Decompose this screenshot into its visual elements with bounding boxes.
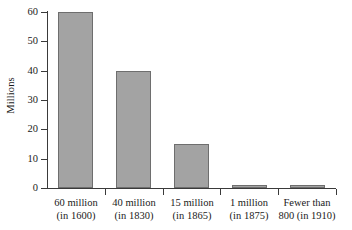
bar-chart: Millions 0102030405060 60 million(in 160…	[0, 0, 352, 230]
y-tick-mark	[41, 188, 47, 189]
x-category-label: Fewer than800 (in 1910)	[271, 197, 343, 222]
bar	[174, 144, 209, 188]
bar	[116, 71, 151, 188]
y-tick-label: 40	[8, 65, 38, 76]
x-tick-mark	[220, 189, 221, 195]
y-tick-mark	[41, 71, 47, 72]
x-tick-mark	[105, 189, 106, 195]
y-axis-line	[47, 11, 48, 189]
y-tick-mark	[41, 41, 47, 42]
y-tick-mark	[41, 12, 47, 13]
x-tick-mark	[163, 189, 164, 195]
bar	[58, 12, 93, 188]
y-tick-mark	[41, 159, 47, 160]
y-tick-label: 50	[8, 36, 38, 47]
y-tick-label: 0	[8, 183, 38, 194]
y-tick-label: 10	[8, 153, 38, 164]
x-tick-mark	[278, 189, 279, 195]
x-category-label-line: 800 (in 1910)	[271, 210, 343, 223]
bar	[232, 185, 267, 188]
x-category-label-line: Fewer than	[271, 197, 343, 210]
y-tick-mark	[41, 100, 47, 101]
x-axis-line	[47, 188, 336, 189]
y-tick-label: 60	[8, 7, 38, 18]
x-tick-mark	[336, 189, 337, 195]
y-tick-mark	[41, 129, 47, 130]
y-tick-label: 20	[8, 124, 38, 135]
y-tick-label: 30	[8, 95, 38, 106]
bar	[290, 185, 325, 188]
